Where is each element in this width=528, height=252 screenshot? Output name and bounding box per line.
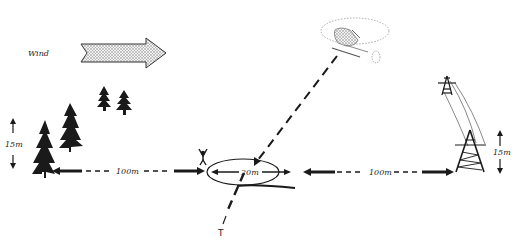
right-distance-label: 100m (369, 168, 392, 177)
wind-label: Wind (28, 49, 49, 58)
near-pylon-icon (455, 130, 486, 172)
tree-icon (32, 120, 55, 178)
left-distance-label: 100m (116, 167, 139, 176)
tree-icon (116, 90, 132, 115)
person-icon (199, 149, 207, 165)
wind-arrow-icon (81, 38, 166, 68)
helicopter-icon (321, 18, 389, 63)
tree-height-label: 15m (5, 140, 23, 149)
power-cables (444, 81, 485, 146)
tree-icon (97, 86, 111, 111)
landing-mark-shadow (237, 185, 295, 188)
pylon-height-label: 15m (493, 148, 511, 157)
far-pylon-icon (438, 76, 456, 95)
touchdown-marker-label: T (217, 228, 224, 238)
tree-icon (59, 103, 83, 152)
approach-path (223, 56, 337, 224)
landing-zone-diagram: Wind 15m 100m (0, 0, 528, 252)
